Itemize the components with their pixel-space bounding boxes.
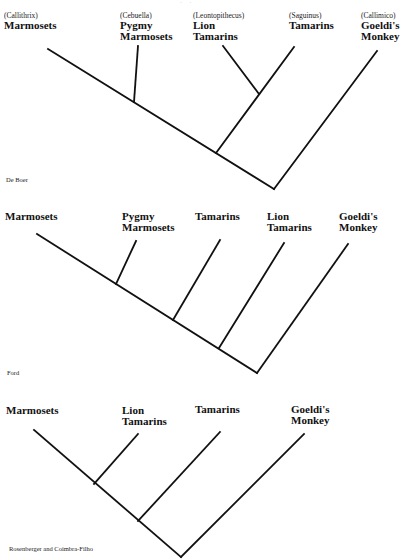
taxon-label-lion-tamarins: Lion Tamarins [267,211,312,233]
attribution-ford: Ford [7,369,19,376]
cladogram-de-boer: (Callithrix) Marmosets (Cebuella) Pygmy … [0,0,402,200]
taxon-label-marmosets: (Callithrix) Marmosets [4,11,57,31]
taxon-label-tamarins: (Saguinus) Tamarins [289,11,334,31]
taxon-label-lion-tamarins: Lion Tamarins [122,405,167,427]
taxon-label-goeldis-monkey: Goeldi's Monkey [339,211,378,233]
taxon-label-tamarins: Tamarins [195,211,240,222]
taxon-label-pygmy-marmosets: Pygmy Marmosets [122,211,175,233]
taxon-label-pygmy-marmosets: (Cebuella) Pygmy Marmosets [120,11,173,42]
cladogram-ford: Marmosets Pygmy Marmosets Tamarins Lion … [0,200,402,380]
attribution-de-boer: De Boer [6,176,28,183]
taxon-label-marmosets: Marmosets [5,211,58,222]
cladogram-rosenberger-coimbra-filho: Marmosets Lion Tamarins Tamarins Goeldi'… [0,380,402,560]
taxon-label-lion-tamarins: (Leontopithecus) Lion Tamarins [193,11,244,42]
taxon-label-goeldis-monkey: Goeldi's Monkey [291,404,330,426]
attribution-rosenberger-coimbra-filho: Rosenberger and Coimbra-Filho [9,545,93,552]
taxon-label-goeldis-monkey: (Callimico) Goeldi's Monkey [361,11,400,42]
taxon-label-marmosets: Marmosets [6,405,59,416]
taxon-label-tamarins: Tamarins [195,404,240,415]
